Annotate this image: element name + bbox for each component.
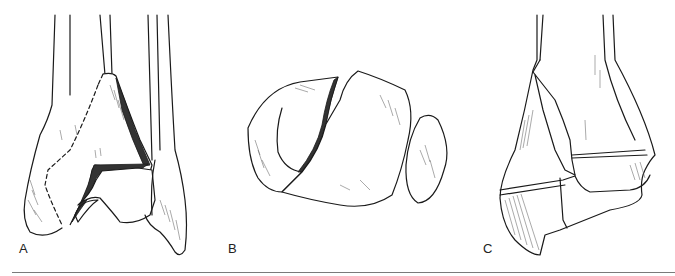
panel-b: B [230,0,460,270]
bottom-divider [12,272,675,273]
panel-a: A [0,0,230,270]
panel-label-b: B [228,241,237,256]
ankle-axial-illustration [230,0,460,270]
panel-label-a: A [19,241,28,256]
panel-c: C [445,0,675,270]
distal-tibia-fracture-illustration [445,0,675,270]
ankle-anterior-illustration [0,0,230,270]
shading-hatch [505,55,645,250]
panel-label-c: C [483,241,492,256]
